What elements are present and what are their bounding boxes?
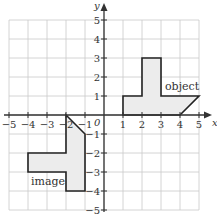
y-tick-label: −2 [85,148,100,159]
x-tick-label: 3 [158,119,164,130]
origin-label: 0 [94,117,101,128]
object-label: object [165,80,200,93]
x-tick-label: 1 [120,119,126,130]
y-tick-label: 4 [94,34,100,45]
y-tick-label: −1 [85,129,100,140]
y-tick-label: −5 [85,205,100,214]
x-tick-label: −4 [21,119,36,130]
x-axis-label: x [212,117,217,128]
x-tick-label: 2 [139,119,145,130]
image-label: image [31,175,65,188]
y-axis-label: y [93,0,100,11]
x-tick-label: 4 [177,119,183,130]
coordinate-diagram: x y 0 −5−4−3−2−11234554321−1−2−3−4−5 obj… [0,0,217,214]
y-tick-label: 1 [94,91,100,102]
y-tick-label: −4 [85,186,100,197]
x-tick-label: −2 [59,119,74,130]
x-axis-arrow-icon [204,112,212,119]
x-tick-label: −3 [40,119,55,130]
x-tick-label: −5 [2,119,17,130]
x-tick-label: 5 [196,119,202,130]
y-tick-label: 3 [94,53,100,64]
y-tick-label: 2 [94,72,100,83]
y-tick-label: 5 [94,15,100,26]
y-tick-label: −3 [85,167,100,178]
y-axis-arrow-icon [101,3,108,11]
